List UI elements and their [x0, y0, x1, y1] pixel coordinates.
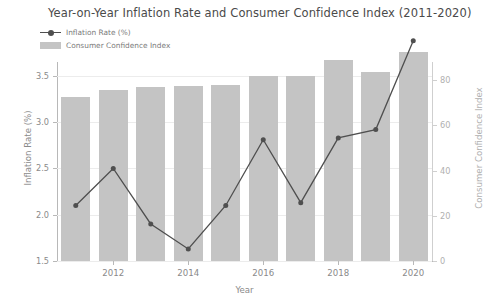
x-axis-label: Year: [0, 285, 489, 295]
data-point-marker[interactable]: [261, 137, 266, 142]
inflation-rate-line: [76, 41, 414, 249]
data-point-marker[interactable]: [73, 203, 78, 208]
data-point-marker[interactable]: [411, 38, 416, 43]
inflation-rate-line-series: [0, 0, 489, 306]
data-point-marker[interactable]: [111, 166, 116, 171]
data-point-marker[interactable]: [148, 221, 153, 226]
data-point-marker[interactable]: [373, 127, 378, 132]
chart-figure: Year-on-Year Inflation Rate and Consumer…: [0, 0, 489, 306]
y-axis-left-label: Inflation Rate (%): [23, 53, 33, 243]
data-point-marker[interactable]: [186, 246, 191, 251]
data-point-marker[interactable]: [223, 203, 228, 208]
data-point-marker[interactable]: [336, 135, 341, 140]
data-point-marker[interactable]: [298, 200, 303, 205]
y-axis-right-label: Consumer Confidence Index: [474, 53, 484, 243]
